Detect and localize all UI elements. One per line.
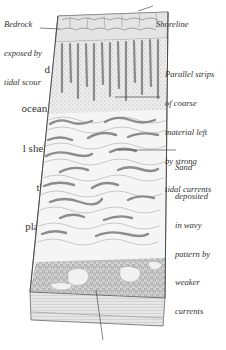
bedrock-zone bbox=[55, 12, 168, 42]
figure-page: d ocean. l shelf the plain, ed ealed r t… bbox=[0, 0, 226, 350]
wavy-sand-zone bbox=[36, 110, 168, 262]
gravel-patches-zone bbox=[30, 258, 165, 298]
parallel-strips-zone bbox=[48, 38, 167, 114]
label-shoreline: Shoreline bbox=[156, 1, 189, 49]
shoreline-leader bbox=[138, 6, 153, 11]
label-bedrock: Bedrock exposed by tidal scour bbox=[4, 1, 42, 107]
label-irregular-patches: Irregular patches of bbox=[105, 336, 174, 350]
label-sand: Sand deposited in wavy pattern by weaker… bbox=[175, 144, 210, 336]
block-front-face bbox=[30, 292, 165, 326]
